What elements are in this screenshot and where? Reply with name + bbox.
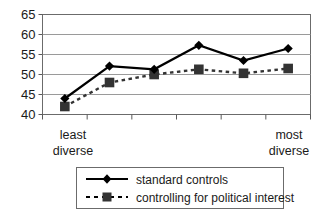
y-tick-label: 65	[21, 7, 35, 22]
y-tick-label: 50	[21, 67, 35, 82]
legend-label-standard-controls: standard controls	[136, 173, 228, 187]
square-marker-icon	[103, 193, 112, 202]
chart-svg: 404550556065 least diverse most diverse …	[0, 0, 332, 217]
x-label-most-line1: most	[275, 128, 303, 142]
square-marker-icon	[283, 64, 293, 74]
y-tick-label: 60	[21, 27, 35, 42]
square-marker-icon	[239, 69, 249, 79]
x-label-least-line2: diverse	[53, 144, 93, 158]
y-tick-label: 55	[21, 47, 35, 62]
square-marker-icon	[194, 65, 204, 75]
y-tick-label: 45	[21, 87, 35, 102]
x-label-most-line2: diverse	[269, 144, 309, 158]
chart-figure: 404550556065 least diverse most diverse …	[0, 0, 332, 217]
square-marker-icon	[60, 102, 70, 112]
y-tick-label: 40	[21, 107, 35, 122]
legend-label-controlling-for-political-interest: controlling for political interest	[136, 191, 295, 205]
x-label-least-line1: least	[60, 128, 87, 142]
square-marker-icon	[105, 78, 115, 88]
